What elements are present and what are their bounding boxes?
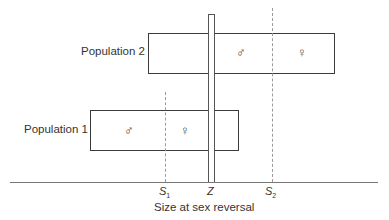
- female-symbol-icon: ♀: [297, 46, 307, 59]
- tick-s2-sub: 2: [272, 192, 276, 199]
- s2-threshold-line: [272, 8, 273, 182]
- population-2-label: Population 2: [81, 45, 145, 57]
- population-1-label: Population 1: [24, 123, 88, 135]
- male-symbol-icon: ♂: [236, 46, 246, 59]
- tick-z-name: Z: [207, 185, 214, 197]
- female-symbol-icon: ♀: [180, 124, 190, 137]
- tick-s2: S2: [265, 185, 276, 199]
- x-axis: [10, 182, 378, 183]
- z-bar: [208, 14, 215, 182]
- tick-s1: S1: [159, 185, 170, 199]
- tick-z: Z: [207, 185, 214, 197]
- axis-title: Size at sex reversal: [154, 201, 254, 213]
- s1-threshold-line: [165, 92, 166, 182]
- tick-s1-sub: 1: [166, 192, 170, 199]
- male-symbol-icon: ♂: [124, 124, 134, 137]
